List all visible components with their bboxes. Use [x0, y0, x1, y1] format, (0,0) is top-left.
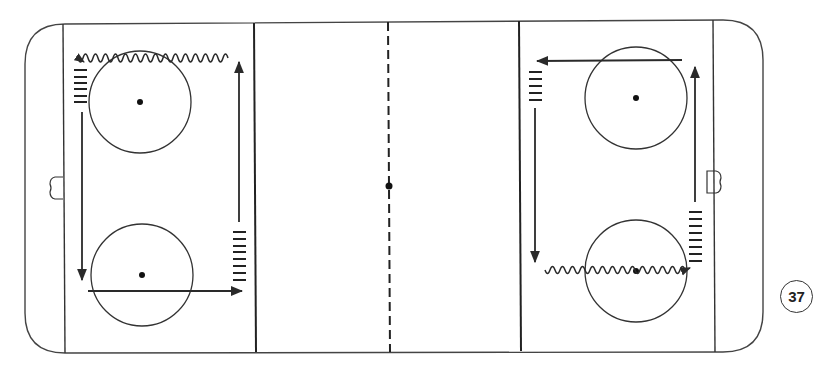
- player-line-right-top: [529, 72, 542, 100]
- left-blue-line: [254, 23, 256, 352]
- faceoff-circle-left-top: [89, 51, 191, 153]
- stickhandle-path-right: [545, 267, 690, 274]
- right-blue-line: [519, 21, 521, 351]
- hockey-rink-diagram: [0, 0, 813, 371]
- left-goal-crease: [50, 177, 63, 199]
- player-line-left-bottom: [233, 232, 246, 280]
- skate-path-right-left: [537, 60, 682, 61]
- center-dot: [386, 183, 393, 190]
- faceoff-circle-left-bottom: [91, 224, 193, 326]
- rink-boards: [25, 20, 763, 353]
- faceoff-dot: [137, 99, 143, 105]
- page-number: 37: [788, 288, 805, 305]
- stickhandle-path-left: [78, 54, 228, 62]
- right-goal-line: [713, 20, 715, 352]
- player-line-right-bottom: [689, 212, 702, 261]
- left-goal-line: [63, 24, 65, 353]
- player-line-left-top: [74, 70, 87, 102]
- page-number-badge: 37: [780, 280, 813, 313]
- faceoff-dot: [139, 272, 145, 278]
- faceoff-circle-right-top: [585, 47, 687, 149]
- faceoff-dot: [633, 95, 639, 101]
